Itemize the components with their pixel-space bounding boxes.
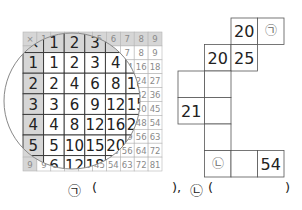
table-value: × bbox=[26, 34, 33, 44]
magnified-value: 12 bbox=[106, 96, 125, 114]
label-b: ㉡ bbox=[190, 180, 203, 199]
magnified-value: 2 bbox=[70, 54, 80, 72]
table-value: 54 bbox=[150, 118, 161, 128]
magnified-value: 9 bbox=[90, 96, 100, 114]
magnified-value: 5 bbox=[29, 137, 39, 155]
magnified-value: 8 bbox=[70, 116, 80, 134]
puzzle-cell bbox=[178, 71, 205, 98]
table-value: 63 bbox=[122, 160, 133, 170]
table-value: 63 bbox=[150, 132, 161, 142]
open-paren-a: ( bbox=[92, 180, 97, 195]
table-value: 72 bbox=[150, 146, 161, 156]
magnified-value: 2 bbox=[49, 75, 59, 93]
table-value: 56 bbox=[136, 132, 147, 142]
magnified-value: 2 bbox=[29, 75, 39, 93]
magnified-value: 4 bbox=[70, 75, 80, 93]
open-paren-b: ( bbox=[208, 180, 213, 195]
answer-blank-b[interactable] bbox=[260, 180, 264, 195]
close-paren-a: ), bbox=[172, 180, 181, 195]
puzzle-cell bbox=[205, 124, 232, 151]
puzzle-blank-marker: ㉡ bbox=[212, 157, 224, 171]
table-value: 9 bbox=[152, 48, 157, 58]
problem-figure: ×123456789112345678922468101214161833691… bbox=[0, 0, 302, 210]
table-value: 6 bbox=[111, 34, 116, 44]
magnified-value: 1 bbox=[29, 54, 39, 72]
label-a: ㉠ bbox=[68, 180, 81, 199]
magnified-value: 3 bbox=[29, 96, 39, 114]
magnified-value: 10 bbox=[65, 137, 84, 155]
table-value: 56 bbox=[122, 146, 133, 156]
magnified-value: 5 bbox=[49, 137, 59, 155]
puzzle-value: 20 bbox=[234, 22, 254, 41]
magnified-value: 15 bbox=[86, 137, 105, 155]
table-value: 54 bbox=[108, 160, 119, 170]
magnified-value: 4 bbox=[49, 116, 59, 134]
magnified-value: 12 bbox=[86, 116, 105, 134]
magnified-value: 12 bbox=[65, 157, 84, 175]
table-value: 72 bbox=[136, 160, 147, 170]
puzzle-blank-marker: ㉠ bbox=[265, 24, 277, 38]
puzzle-value: 25 bbox=[234, 49, 254, 68]
table-value: 16 bbox=[136, 62, 147, 72]
magnified-value: 1 bbox=[49, 54, 59, 72]
puzzle-value: 20 bbox=[208, 49, 228, 68]
magnified-value: 3 bbox=[49, 96, 59, 114]
table-value: 7 bbox=[125, 34, 130, 44]
table-value: 64 bbox=[136, 146, 147, 156]
table-value: 81 bbox=[150, 160, 161, 170]
table-value: 27 bbox=[150, 76, 161, 86]
puzzle-grid: 20㉠202521㉡54 bbox=[178, 18, 284, 177]
magnified-value: 3 bbox=[90, 54, 100, 72]
magnified-value: 6 bbox=[90, 75, 100, 93]
magnified-value: 16 bbox=[106, 116, 125, 134]
magnified-value: 8 bbox=[111, 75, 121, 93]
table-value: 18 bbox=[150, 62, 161, 72]
puzzle-cell bbox=[205, 71, 232, 98]
puzzle-cell bbox=[231, 151, 258, 178]
table-value: 7 bbox=[125, 48, 130, 58]
puzzle-value: 21 bbox=[181, 102, 201, 121]
table-value: 8 bbox=[138, 34, 143, 44]
table-value: 9 bbox=[152, 34, 157, 44]
puzzle-value: 54 bbox=[261, 155, 281, 174]
table-value: 36 bbox=[150, 90, 161, 100]
close-paren-b: ) bbox=[285, 180, 290, 195]
table-value: 8 bbox=[138, 48, 143, 58]
magnified-value: 4 bbox=[29, 116, 39, 134]
magnified-value: 4 bbox=[111, 54, 121, 72]
table-value: 9 bbox=[27, 160, 32, 170]
puzzle-cell bbox=[205, 98, 232, 125]
magnified-value: 2 bbox=[70, 34, 80, 52]
magnified-value: 6 bbox=[70, 96, 80, 114]
table-value: 45 bbox=[150, 104, 161, 114]
